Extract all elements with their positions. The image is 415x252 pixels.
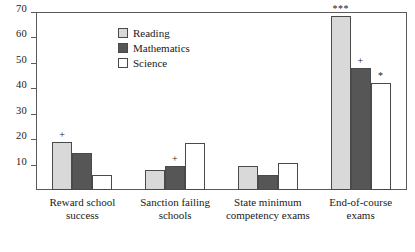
significance-marker: * [371,71,391,81]
bar-science [371,83,391,190]
y-axis-tick-label: 40 [16,80,27,91]
x-axis-category-label-line: exams [302,209,415,222]
bar-mathematics [258,175,278,190]
y-axis-tick-label: 60 [16,29,27,40]
x-axis-category-label: End-of-courseexams [302,196,415,222]
y-axis: 10203040506070 [0,0,36,190]
bar-chart: 10203040506070 ReadingMathematicsScience… [0,0,415,252]
significance-marker: + [52,130,72,140]
y-axis-tick-label: 30 [16,106,27,117]
bar-science [92,175,112,190]
y-axis-tick-label: 50 [16,55,27,66]
y-axis-tick-label: 20 [16,131,27,142]
significance-marker: + [165,154,185,164]
bar-mathematics [165,166,185,190]
bar-science [278,163,298,190]
bar-reading [331,16,351,190]
bar-reading [52,142,72,190]
bar-group: + [145,12,205,190]
bars-layer: ++***+* [36,12,407,190]
bar-mathematics [72,153,92,190]
bar-group [238,12,298,190]
y-axis-tick-label: 10 [16,157,27,168]
bar-science [185,143,205,190]
bar-mathematics [351,68,371,190]
bar-group: + [52,12,112,190]
significance-marker: + [351,56,371,66]
bar-reading [238,166,258,190]
x-axis-labels: Reward schoolsuccessSanction failingscho… [36,196,407,244]
bar-group: ***+* [331,12,391,190]
bar-reading [145,170,165,190]
x-axis-category-label-line: End-of-course [302,196,415,209]
significance-marker: *** [331,4,351,14]
y-axis-tick-label: 70 [16,4,27,15]
